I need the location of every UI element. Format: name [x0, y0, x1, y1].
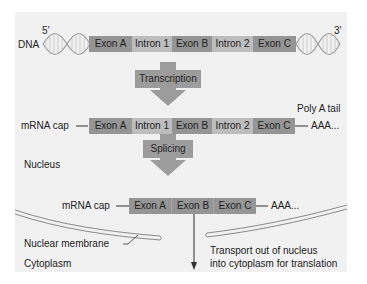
pre-mrna-exon-c: Exon C	[253, 118, 295, 134]
pre-mrna-intron-2: Intron 2	[212, 118, 253, 134]
three-prime-label: 3′	[334, 25, 341, 37]
down-arrow-icon	[191, 262, 197, 270]
transcription-step: Transcription	[135, 70, 201, 88]
mature-mrna-poly-a: AAA...	[271, 200, 299, 212]
pre-mrna-intron-1: Intron 1	[132, 118, 172, 134]
nuclear-membrane-left	[15, 210, 162, 240]
poly-a-tail-label: Poly A tail	[297, 103, 340, 115]
dna-label: DNA	[18, 39, 39, 51]
dna-exon-a: Exon A	[89, 36, 132, 52]
mature-exon-a: Exon A	[129, 198, 171, 214]
transport-text-line2: into cytoplasm for translation	[210, 258, 337, 270]
dna-helix-left-icon	[43, 33, 90, 55]
dna-exon-b: Exon B	[172, 36, 212, 52]
mature-exon-b: Exon B	[171, 198, 214, 214]
pre-mrna-exon-b: Exon B	[172, 118, 212, 134]
dna-exon-c: Exon C	[253, 36, 296, 52]
five-prime-label: 5′	[42, 25, 49, 37]
mature-mrna-cap-label: mRNA cap	[62, 200, 110, 212]
cytoplasm-label: Cytoplasm	[24, 258, 71, 270]
pre-mrna-poly-a: AAA...	[311, 120, 339, 132]
transport-text-line1: Transport out of nucleus	[210, 245, 317, 257]
dna-intron-1: Intron 1	[132, 36, 172, 52]
nucleus-label: Nucleus	[24, 159, 60, 171]
pre-mrna-exon-a: Exon A	[89, 118, 132, 134]
dna-intron-2: Intron 2	[212, 36, 253, 52]
nuclear-membrane-label: Nuclear membrane	[24, 238, 109, 250]
mature-exon-c: Exon C	[213, 198, 256, 214]
splicing-step: Splicing	[143, 140, 193, 158]
pre-mrna-cap-label: mRNA cap	[21, 120, 69, 132]
